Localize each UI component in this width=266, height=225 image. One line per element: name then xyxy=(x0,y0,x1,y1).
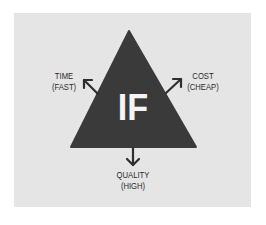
label-time-subtitle: (FAST) xyxy=(47,82,81,93)
center-label: IF xyxy=(114,88,152,128)
label-cost: COST (CHEAP) xyxy=(183,71,222,93)
label-time-title: TIME xyxy=(47,71,81,82)
label-time: TIME (FAST) xyxy=(47,71,81,93)
arrow-up-right-icon xyxy=(166,79,181,93)
label-cost-subtitle: (CHEAP) xyxy=(183,82,222,93)
label-quality-subtitle: (HIGH) xyxy=(112,181,155,192)
arrow-down-icon xyxy=(127,148,139,165)
label-quality-title: QUALITY xyxy=(112,170,155,181)
arrow-up-left-icon xyxy=(84,80,98,94)
label-quality: QUALITY (HIGH) xyxy=(112,170,155,192)
label-cost-title: COST xyxy=(183,71,222,82)
